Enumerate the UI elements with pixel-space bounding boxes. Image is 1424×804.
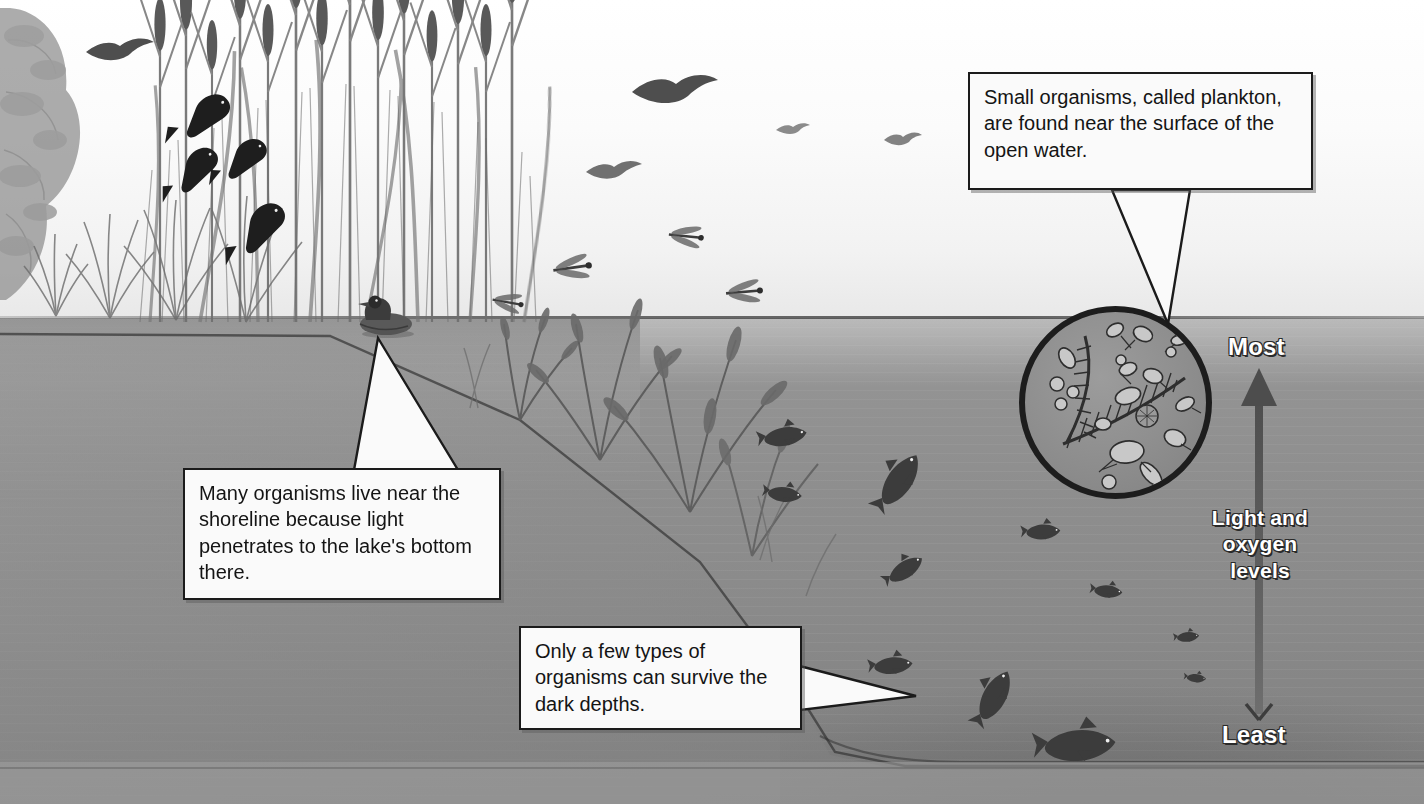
callout-shoreline-text: Many organisms live near the shoreline b… [199,480,485,586]
label-levels-line1: Light and [1196,505,1324,531]
label-least: Least [1222,721,1286,749]
label-levels-line3: levels [1196,558,1324,584]
callout-shoreline: Many organisms live near the shoreline b… [183,468,501,600]
aquatic-plants [464,297,836,596]
callout-plankton: Small organisms, called plankton, are fo… [968,72,1313,190]
shoreline-callout-pointer [330,330,510,480]
callout-plankton-text: Small organisms, called plankton, are fo… [984,84,1297,163]
label-light-oxygen-levels: Light and oxygen levels [1196,505,1324,584]
plankton-inset-circle [1019,306,1212,499]
label-levels-line2: oxygen [1196,531,1324,557]
label-most: Most [1228,333,1285,361]
callout-depths: Only a few types of organisms can surviv… [519,626,802,730]
blackbird [149,92,294,266]
plankton-callout-pointer [1040,178,1270,328]
callout-depths-text: Only a few types of organisms can surviv… [535,638,786,717]
lake-ecosystem-diagram: Small organisms, called plankton, are fo… [0,0,1424,804]
